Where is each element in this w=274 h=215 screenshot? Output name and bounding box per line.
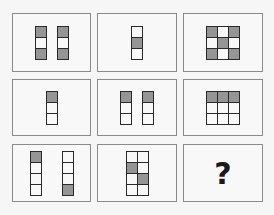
block-shape (142, 91, 154, 125)
filled-square (218, 38, 228, 48)
empty-square (207, 114, 217, 124)
empty-square (132, 49, 142, 59)
filled-square (36, 27, 46, 37)
empty-square (218, 114, 228, 124)
empty-square (127, 185, 137, 195)
empty-square (63, 152, 73, 162)
empty-square (31, 185, 41, 195)
filled-square (47, 92, 57, 102)
empty-square (229, 103, 239, 113)
block-shape (35, 26, 47, 60)
empty-square (229, 38, 239, 48)
puzzle-cell-r1c1 (12, 13, 91, 72)
filled-square (31, 152, 41, 162)
empty-square (218, 103, 228, 113)
puzzle-cell-r1c3 (183, 13, 263, 72)
empty-square (47, 103, 57, 113)
block-shape (30, 151, 42, 196)
block-shape (131, 26, 143, 60)
filled-square (121, 92, 131, 102)
puzzle-cell-r3c1 (12, 144, 91, 202)
puzzle-cell-r1c2 (97, 13, 177, 72)
empty-square (58, 38, 68, 48)
empty-square (127, 174, 137, 184)
empty-square (218, 27, 228, 37)
puzzle-cell-r3c3[interactable]: ? (183, 144, 263, 202)
filled-square (229, 27, 239, 37)
empty-square (31, 174, 41, 184)
empty-square (63, 163, 73, 173)
empty-square (138, 152, 148, 162)
empty-square (229, 114, 239, 124)
puzzle-cell-r2c2 (97, 79, 177, 136)
filled-square (207, 49, 217, 59)
block-shape (57, 26, 69, 60)
empty-square (207, 103, 217, 113)
filled-square (58, 49, 68, 59)
empty-square (63, 174, 73, 184)
filled-square (207, 27, 217, 37)
empty-square (31, 163, 41, 173)
question-mark: ? (184, 145, 262, 201)
empty-square (121, 103, 131, 113)
filled-square (63, 185, 73, 195)
filled-square (229, 92, 239, 102)
block-shape (120, 91, 132, 125)
filled-square (218, 92, 228, 102)
empty-square (132, 27, 142, 37)
block-shape (206, 91, 240, 125)
block-shape (62, 151, 74, 196)
empty-square (36, 38, 46, 48)
empty-square (121, 114, 131, 124)
filled-square (58, 27, 68, 37)
empty-square (127, 152, 137, 162)
empty-square (143, 103, 153, 113)
block-shape (46, 91, 58, 125)
filled-square (143, 92, 153, 102)
empty-square (207, 38, 217, 48)
puzzle-cell-r2c1 (12, 79, 91, 136)
filled-square (229, 49, 239, 59)
filled-square (127, 163, 137, 173)
empty-square (218, 49, 228, 59)
empty-square (138, 163, 148, 173)
filled-square (132, 38, 142, 48)
filled-square (207, 92, 217, 102)
filled-square (36, 49, 46, 59)
block-shape (126, 151, 149, 196)
puzzle-cell-r2c3 (183, 79, 263, 136)
puzzle-cell-r3c2 (97, 144, 177, 202)
empty-square (138, 185, 148, 195)
empty-square (47, 114, 57, 124)
block-shape (206, 26, 240, 60)
empty-square (143, 114, 153, 124)
filled-square (138, 174, 148, 184)
